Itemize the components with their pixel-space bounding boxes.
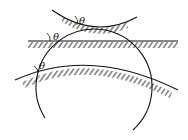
flat-surface-hatch: [28, 42, 178, 48]
contact-angle-diagram: θ θ θ: [0, 0, 188, 140]
theta-label-bottom: θ: [39, 60, 45, 71]
angle-arc-middle: [47, 33, 50, 41]
theta-label-top: θ: [79, 15, 85, 26]
bottom-surface-hatch: [22, 68, 172, 98]
theta-label-middle: θ: [53, 31, 59, 42]
